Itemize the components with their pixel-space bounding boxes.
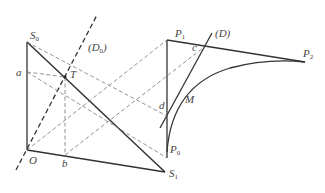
label-b: b [62, 158, 68, 169]
label-D: (D) [215, 28, 230, 39]
label-P0: P0 [170, 144, 180, 157]
segment-S0-S1 [27, 42, 165, 172]
label-c: c [192, 42, 197, 53]
label-a: a [16, 67, 22, 78]
segment-P1-P2 [167, 40, 305, 62]
point-T [63, 75, 66, 78]
label-P1: P1 [175, 28, 185, 41]
label-T: T [70, 69, 76, 80]
curve-P0-M-P2 [167, 61, 305, 152]
label-D0: (D0) [88, 42, 107, 55]
label-P2: P2 [303, 48, 313, 61]
line-D0 [16, 15, 97, 170]
label-S0: S0 [30, 30, 39, 43]
dashed-O-P1 [27, 40, 167, 150]
label-O: O [29, 155, 37, 166]
label-d: d [159, 100, 165, 111]
label-M: M [185, 94, 194, 105]
label-S1: S1 [169, 168, 178, 181]
geometry-diagram [0, 0, 325, 193]
dashed-a-P0 [27, 72, 167, 158]
